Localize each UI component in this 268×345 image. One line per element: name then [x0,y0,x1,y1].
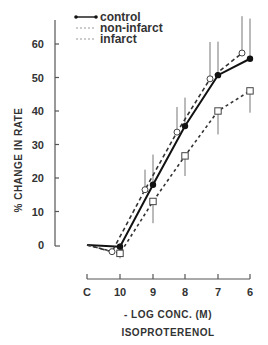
series-line-control [87,59,250,247]
marker-non-infarct [109,249,115,255]
marker-non-infarct [207,76,213,82]
marker-non-infarct [174,129,180,135]
legend-marker-control [94,15,98,19]
y-tick-label: 10 [32,206,44,218]
x-tick-label: 6 [247,286,253,298]
x-tick-label: 7 [215,286,221,298]
marker-control [117,243,123,249]
x-tick-label: 8 [182,286,188,298]
marker-control [247,56,253,62]
marker-infarct [182,153,188,159]
marker-non-infarct [239,50,245,56]
x-tick-label: C [83,286,91,298]
legend-marker-control [74,15,78,19]
x-axis: C109876 [83,274,253,298]
y-axis: 0102030405060 [32,20,60,251]
marker-control [182,123,188,129]
y-tick-label: 0 [38,239,44,251]
y-tick-label: 40 [32,105,44,117]
series-line-non-infarct [87,53,242,252]
y-tick-label: 50 [32,72,44,84]
x-axis-title: - LOG CONC. (M) [124,309,212,320]
y-axis-title: % CHANGE IN RATE [13,107,24,212]
marker-control [150,182,156,188]
x-axis-subtitle: ISOPROTERENOL [121,327,214,338]
line-chart: 0102030405060 C109876 controlnon-infarct… [0,0,268,345]
marker-non-infarct [142,187,148,193]
series-line-infarct [87,91,250,253]
y-tick-label: 60 [32,38,44,50]
marker-infarct [117,250,123,256]
legend-label-infarct: infarct [100,32,137,46]
marker-infarct [247,88,253,94]
marker-infarct [215,108,221,114]
y-tick-label: 20 [32,172,44,184]
marker-control [215,72,221,78]
x-tick-label: 10 [114,286,126,298]
marker-infarct [150,198,156,204]
x-tick-label: 9 [150,286,156,298]
plot-area [87,16,253,258]
legend: controlnon-infarctinfarct [74,10,162,46]
y-tick-label: 30 [32,139,44,151]
